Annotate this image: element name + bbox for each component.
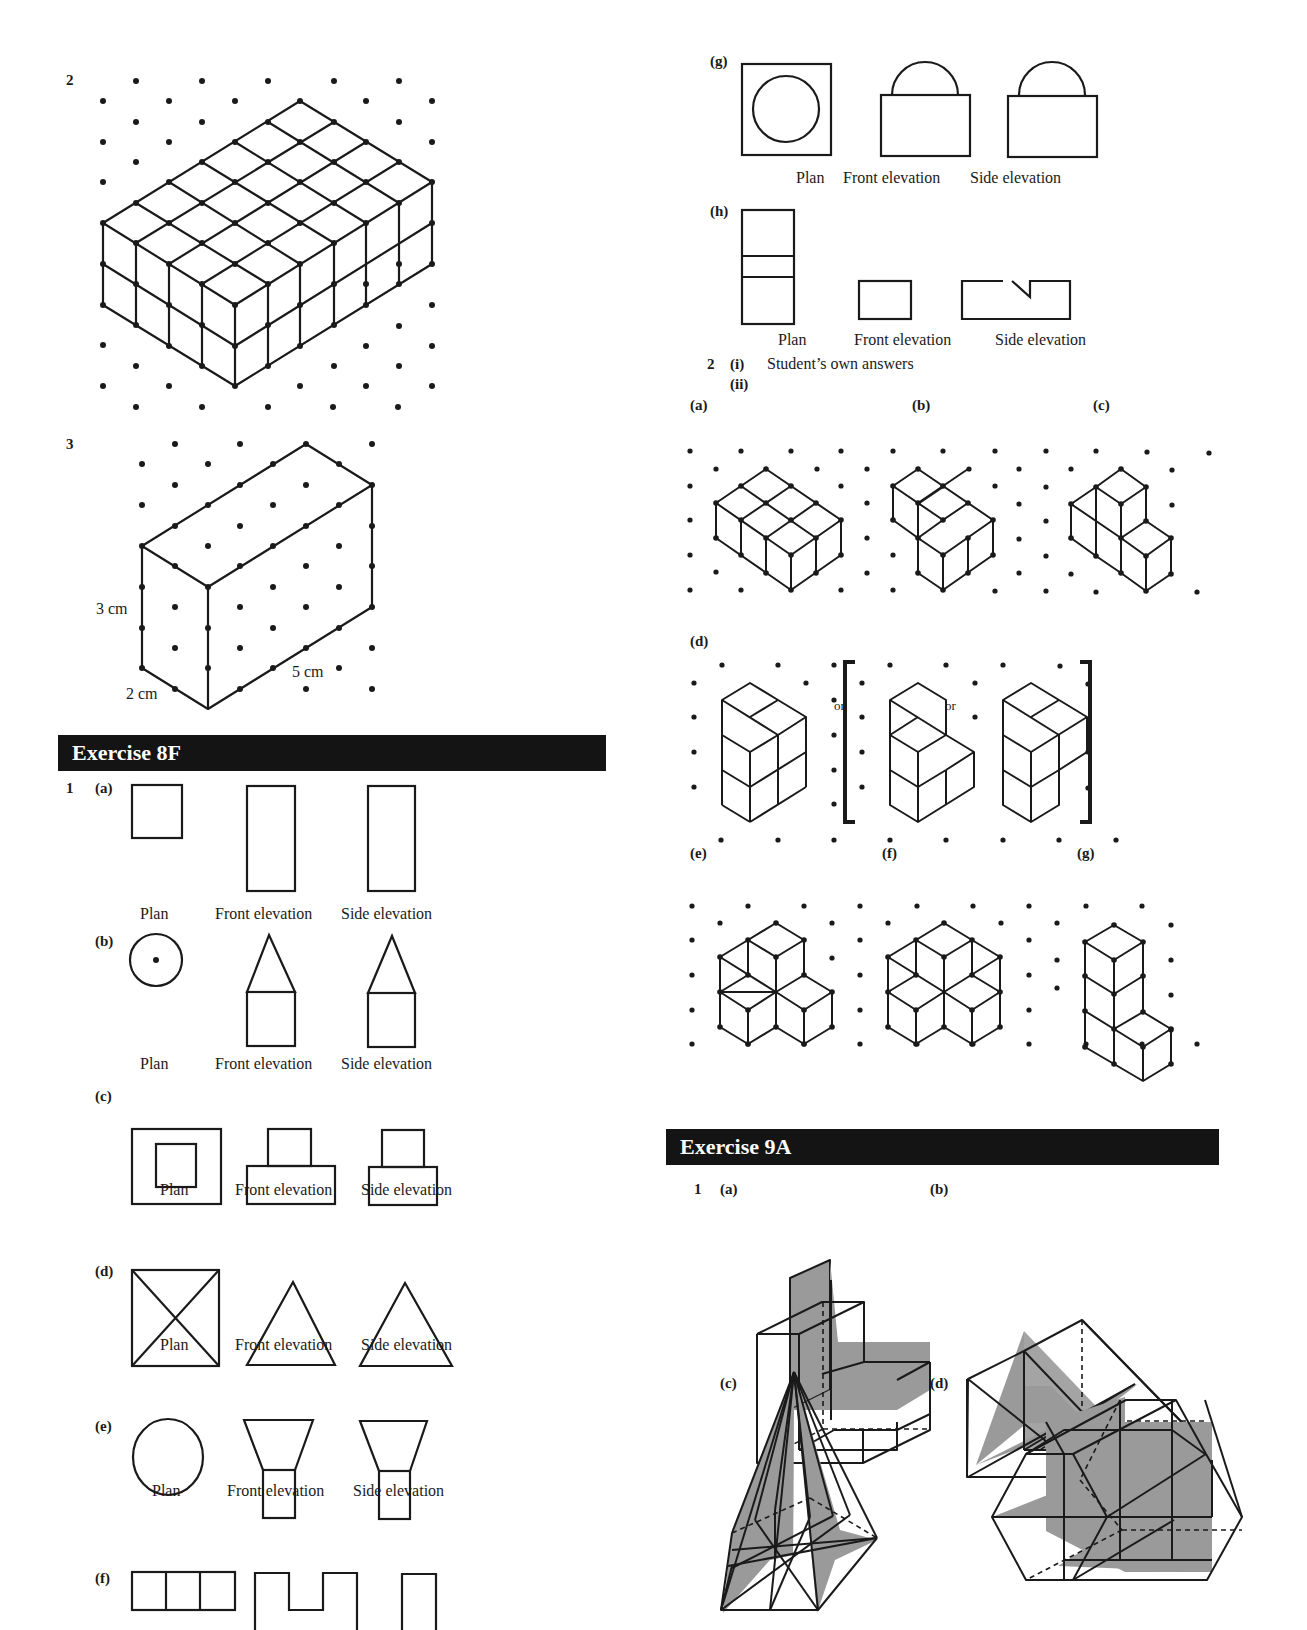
ex8f-c-front-caption: Front elevation: [235, 1181, 332, 1199]
ex8f-e-views: [130, 1418, 470, 1528]
or-text-1: or: [834, 698, 845, 714]
ex8f-part-d-label: (d): [95, 1263, 113, 1280]
q1h-views: [740, 205, 1120, 325]
q2-part-a-label: (a): [690, 397, 708, 414]
ex8f-e-front-caption: Front elevation: [227, 1482, 324, 1500]
q1h-side-caption: Side elevation: [995, 331, 1086, 349]
ex8f-part-a-label: (a): [95, 780, 113, 797]
q1h-label: (h): [710, 203, 728, 220]
ex8f-d-side-caption: Side elevation: [361, 1336, 452, 1354]
q1g-label: (g): [710, 53, 728, 70]
ex8f-b-front-caption: Front elevation: [215, 1055, 312, 1073]
q2-i-text: Student’s own answers: [767, 355, 914, 373]
q1h-plan-caption: Plan: [778, 331, 806, 349]
q2-efg-isometric-diagrams: [660, 830, 1200, 1060]
ex8f-a-plan-caption: Plan: [140, 905, 168, 923]
q1g-plan-caption: Plan: [796, 169, 824, 187]
q2-isometric-cuboid-diagram: [50, 60, 470, 400]
q2-part-c-label: (c): [1093, 397, 1110, 414]
ex8f-a-side-caption: Side elevation: [341, 905, 432, 923]
ex8f-part-b-label: (b): [95, 933, 113, 950]
ex8f-e-plan-caption: Plan: [152, 1482, 180, 1500]
q1g-side-caption: Side elevation: [970, 169, 1061, 187]
q2-ii-label: (ii): [730, 376, 748, 393]
q2-i-label: (i): [730, 356, 744, 373]
ex8f-a-front-caption: Front elevation: [215, 905, 312, 923]
ex8f-part-e-label: (e): [95, 1418, 112, 1435]
q3-cuboid-diagram: [50, 400, 430, 700]
ex8f-f-views: [130, 1570, 470, 1630]
q1g-front-caption: Front elevation: [843, 169, 940, 187]
q2-abc-isometric-diagrams: [660, 420, 1240, 600]
q1h-front-caption: Front elevation: [854, 331, 951, 349]
q3-length-label: 5 cm: [292, 663, 324, 681]
ex8f-c-side-caption: Side elevation: [361, 1181, 452, 1199]
or-text-2: or: [945, 698, 956, 714]
ex8f-part-c-label: (c): [95, 1088, 112, 1105]
ex8f-part-f-label: (f): [95, 1570, 110, 1587]
exercise-8f-banner: Exercise 8F: [58, 735, 606, 771]
ex8f-d-plan-caption: Plan: [160, 1336, 188, 1354]
q2-d-isometric-diagrams: [660, 640, 1100, 810]
ex8f-b-plan-caption: Plan: [140, 1055, 168, 1073]
ex8f-d-front-caption: Front elevation: [235, 1336, 332, 1354]
ex8f-a-views: [130, 782, 460, 892]
ex8f-b-views: [130, 932, 460, 1052]
ex8f-q1-number: 1: [66, 780, 74, 797]
q2-part-b-label: (b): [912, 397, 930, 414]
ex9a-planes-of-symmetry-diagrams: [660, 1160, 1240, 1620]
q2-number: 2: [707, 356, 715, 373]
ex8f-e-side-caption: Side elevation: [353, 1482, 444, 1500]
ex8f-c-plan-caption: Plan: [160, 1181, 188, 1199]
ex8f-b-side-caption: Side elevation: [341, 1055, 432, 1073]
q3-depth-label: 2 cm: [126, 685, 158, 703]
q3-height-label: 3 cm: [96, 600, 128, 618]
q1g-views: [740, 58, 1120, 168]
